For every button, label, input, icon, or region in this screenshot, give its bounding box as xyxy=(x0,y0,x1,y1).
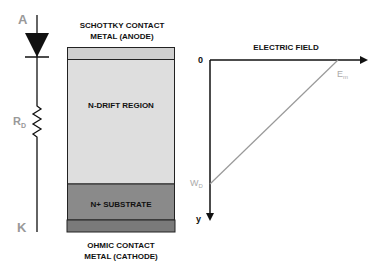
cathode-label: K xyxy=(17,220,27,235)
depletion-width-label: WD xyxy=(190,178,204,189)
top-contact-label-2: METAL (ANODE) xyxy=(90,32,154,41)
circuit-symbol: A RD K xyxy=(13,12,49,235)
y-axis-label: y xyxy=(196,214,201,224)
field-profile-line xyxy=(210,60,338,184)
schottky-diode-diagram: A RD K SCHOTTKY CONTACT METAL (ANODE) N-… xyxy=(0,0,379,275)
bottom-contact-label-2: METAL (CATHODE) xyxy=(84,252,158,261)
peak-field-label: Em xyxy=(337,69,348,80)
schottky-metal-layer xyxy=(68,48,175,60)
ohmic-metal-layer xyxy=(67,220,175,232)
anode-label: A xyxy=(18,12,28,27)
y-axis-arrow-icon xyxy=(206,213,214,221)
substrate-label: N+ SUBSTRATE xyxy=(91,200,153,209)
drift-region-label: N-DRIFT REGION xyxy=(88,101,154,110)
x-axis-arrow-icon xyxy=(360,56,368,64)
resistor-icon xyxy=(33,95,41,232)
device-cross-section: SCHOTTKY CONTACT METAL (ANODE) N-DRIFT R… xyxy=(67,21,175,261)
n-drift-region xyxy=(68,60,175,185)
diode-icon xyxy=(25,33,49,57)
field-title: ELECTRIC FIELD xyxy=(253,43,319,52)
origin-label: 0 xyxy=(198,55,203,65)
bottom-contact-label-1: OHMIC CONTACT xyxy=(87,241,155,250)
top-contact-label-1: SCHOTTKY CONTACT xyxy=(80,21,165,30)
resistor-label: RD xyxy=(13,115,26,129)
electric-field-plot: ELECTRIC FIELD 0 y Em WD xyxy=(190,43,368,224)
